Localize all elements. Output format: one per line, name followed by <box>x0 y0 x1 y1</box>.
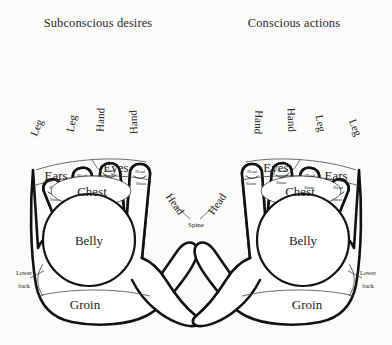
reflexology-diagram: Subconscious desires Conscious actions H… <box>0 0 392 345</box>
right-pinky-tip-sinus: Sinus <box>332 197 342 202</box>
right-middle-label: Hand <box>286 108 299 133</box>
right-lower-back-label-line2: back <box>362 282 375 289</box>
right-index-label: Hand <box>252 110 265 135</box>
right-thumb-label: Head <box>205 190 228 216</box>
left-chest-label: Chest <box>77 184 107 199</box>
left-lower-back-label-line1: Lower <box>16 269 32 276</box>
left-lower-back-label-line2: back <box>18 282 31 289</box>
hands-illustration: Head Sinus Head Sinus Head Sinus Head Si… <box>0 0 392 345</box>
right-ears-label: Ears <box>324 168 347 183</box>
left-hand: Head Sinus Head Sinus Head Sinus Head Si… <box>16 107 199 326</box>
left-pinky-label: Leg <box>28 117 46 138</box>
left-index-tip-sinus: Sinus <box>136 181 146 186</box>
right-chest-label: Chest <box>285 184 315 199</box>
left-ears-label: Ears <box>44 168 67 183</box>
right-eyes-label: Eyes <box>263 160 288 175</box>
right-pinky-label: Leg <box>347 117 365 138</box>
right-pinky-tip-head: Head <box>333 185 343 190</box>
left-index-tip-head: Head <box>135 169 145 174</box>
right-index-tip-head: Head <box>247 169 257 174</box>
right-groin-label: Groin <box>292 297 323 312</box>
right-ring-tip-head: Head <box>305 173 315 178</box>
left-ring-label: Leg <box>64 113 79 132</box>
right-belly-label: Belly <box>289 233 318 248</box>
left-middle-label: Hand <box>94 107 107 132</box>
left-index-label: Hand <box>126 110 139 135</box>
right-ring-label: Leg <box>314 114 329 133</box>
right-index-tip-sinus: Sinus <box>246 181 256 186</box>
left-groin-label: Groin <box>70 297 101 312</box>
left-belly-label: Belly <box>75 233 104 248</box>
spine-label: Spine <box>188 221 204 229</box>
right-lower-back-label-line1: Lower <box>360 269 376 276</box>
left-eyes-label: Eyes <box>103 160 128 175</box>
